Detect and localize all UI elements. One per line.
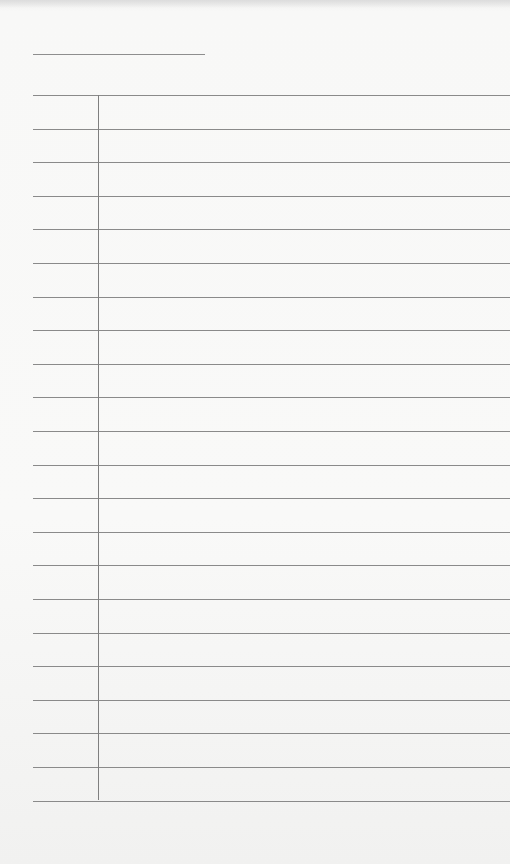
ruled-line — [33, 666, 510, 667]
ruled-line — [33, 297, 510, 298]
ruled-line — [33, 95, 510, 96]
top-shadow — [0, 0, 510, 8]
ruled-line — [33, 364, 510, 365]
ruled-line — [33, 397, 510, 398]
ruled-line — [33, 767, 510, 768]
ruled-line — [33, 733, 510, 734]
ruled-line — [33, 162, 510, 163]
ruled-line — [33, 532, 510, 533]
ruled-line — [33, 599, 510, 600]
notepad-page — [0, 0, 510, 864]
ruled-line — [33, 565, 510, 566]
ruled-line — [33, 431, 510, 432]
ruled-line — [33, 196, 510, 197]
ruled-line — [33, 465, 510, 466]
margin-line — [98, 95, 99, 800]
ruled-line — [33, 330, 510, 331]
ruled-line — [33, 229, 510, 230]
ruled-line — [33, 633, 510, 634]
ruled-line — [33, 129, 510, 130]
ruled-line — [33, 498, 510, 499]
ruled-line — [33, 263, 510, 264]
title-line — [33, 54, 205, 55]
ruled-line — [33, 700, 510, 701]
ruled-line — [33, 801, 510, 802]
